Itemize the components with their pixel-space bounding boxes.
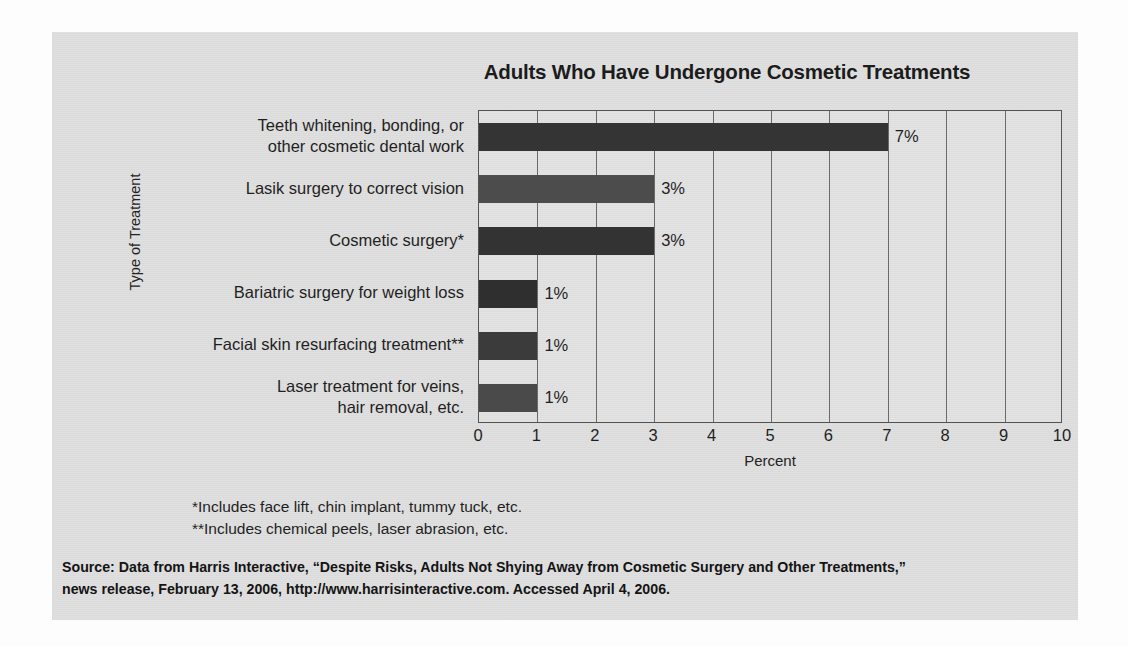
bar-value-label: 1% xyxy=(537,383,568,411)
x-tick-label: 0 xyxy=(473,426,482,445)
x-tick-label: 2 xyxy=(590,426,599,445)
x-tick-label: 6 xyxy=(824,426,833,445)
bar xyxy=(479,332,537,360)
category-label: Bariatric surgery for weight loss xyxy=(164,267,464,319)
source-line: Source: Data from Harris Interactive, “D… xyxy=(62,556,1067,578)
bar xyxy=(479,227,654,255)
x-tick-label: 10 xyxy=(1053,426,1071,445)
category-label: Laser treatment for veins,hair removal, … xyxy=(164,371,464,423)
bar-row: 1% xyxy=(479,268,1061,320)
bar-chart: Type of Treatment Teeth whitening, bondi… xyxy=(52,32,1078,492)
x-tick-label: 8 xyxy=(941,426,950,445)
bar-value-label: 3% xyxy=(654,174,685,202)
source-line: news release, February 13, 2006, http://… xyxy=(62,578,1067,600)
bar-value-label: 1% xyxy=(537,331,568,359)
category-label: Cosmetic surgery* xyxy=(164,214,464,266)
bar-row: 1% xyxy=(479,320,1061,372)
source-note: Source: Data from Harris Interactive, “D… xyxy=(62,556,1067,600)
footnotes: *Includes face lift, chin implant, tummy… xyxy=(192,496,522,540)
figure-card: Adults Who Have Undergone Cosmetic Treat… xyxy=(52,32,1078,620)
bar-row: 1% xyxy=(479,372,1061,424)
bar-value-label: 7% xyxy=(888,122,919,150)
category-label: Lasik surgery to correct vision xyxy=(164,162,464,214)
bar xyxy=(479,123,888,151)
x-tick-label: 5 xyxy=(765,426,774,445)
category-label-column: Teeth whitening, bonding, orother cosmet… xyxy=(172,110,472,423)
x-tick-label: 1 xyxy=(532,426,541,445)
x-axis-title: Percent xyxy=(478,452,1062,469)
x-tick-label: 7 xyxy=(882,426,891,445)
category-label: Facial skin resurfacing treatment** xyxy=(164,319,464,371)
x-tick-label: 4 xyxy=(707,426,716,445)
bar xyxy=(479,384,537,412)
footnote-line: *Includes face lift, chin implant, tummy… xyxy=(192,496,522,518)
plot-area: 7%3%3%1%1%1% xyxy=(478,110,1062,423)
scanned-page: Adults Who Have Undergone Cosmetic Treat… xyxy=(0,0,1128,647)
x-axis-tick-labels: 012345678910 xyxy=(478,426,1062,450)
x-tick-label: 9 xyxy=(999,426,1008,445)
bar-value-label: 3% xyxy=(654,226,685,254)
y-axis-title: Type of Treatment xyxy=(127,132,143,332)
bar-row: 7% xyxy=(479,111,1061,163)
footnote-line: **Includes chemical peels, laser abrasio… xyxy=(192,518,522,540)
category-label: Teeth whitening, bonding, orother cosmet… xyxy=(164,110,464,162)
bar xyxy=(479,175,654,203)
bar-row: 3% xyxy=(479,215,1061,267)
bar-row: 3% xyxy=(479,163,1061,215)
bar-value-label: 1% xyxy=(537,279,568,307)
bar xyxy=(479,280,537,308)
x-tick-label: 3 xyxy=(649,426,658,445)
